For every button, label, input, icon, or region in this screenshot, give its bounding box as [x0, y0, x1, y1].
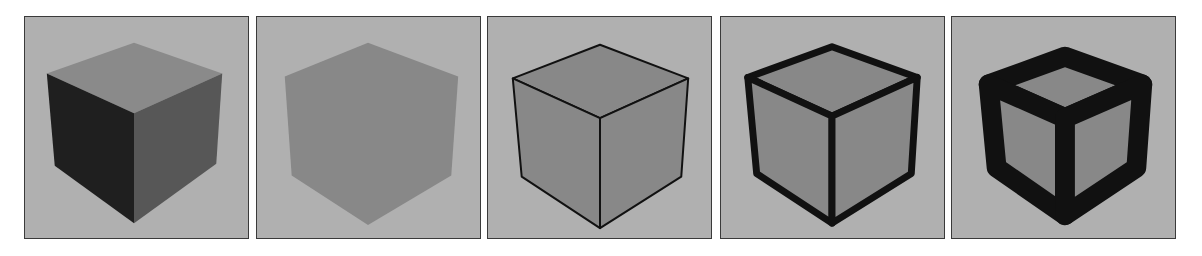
panel-shaded-cube	[24, 16, 249, 239]
thick-outline-cube-graphic	[952, 17, 1175, 238]
shaded-cube-graphic	[25, 17, 248, 238]
panel-thick-outline-cube	[951, 16, 1176, 239]
panel-medium-outline-cube	[720, 16, 945, 239]
medium-outline-cube-graphic	[721, 17, 944, 238]
panel-silhouette-cube	[256, 16, 481, 239]
thin-outline-cube-graphic	[488, 17, 711, 238]
silhouette-cube-graphic	[257, 17, 480, 238]
panel-thin-outline-cube	[487, 16, 712, 239]
